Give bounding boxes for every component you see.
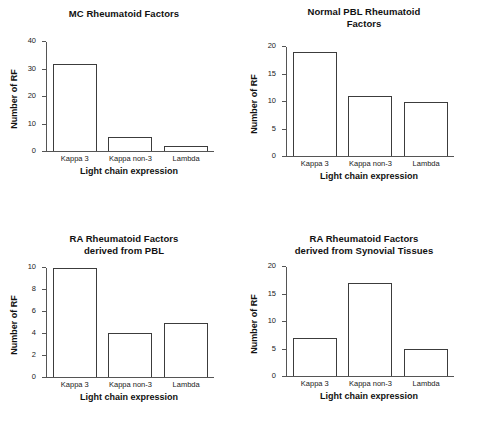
bar-series: [287, 267, 454, 376]
y-axis-tick-label: 30: [28, 65, 36, 73]
bar-slot: [343, 267, 399, 376]
y-axis-tick: 40: [42, 41, 46, 42]
bar-slot: [398, 267, 454, 376]
x-axis-tick-label: Kappa 3: [47, 154, 103, 163]
y-axis-tick: 6: [42, 311, 46, 312]
bar-lambda: [164, 323, 208, 378]
bar-kappa-3: [293, 52, 337, 156]
y-axis-tick: 10: [42, 267, 46, 268]
x-axis-line: [46, 151, 214, 152]
x-axis-tick-label: Kappa non-3: [343, 159, 399, 168]
bar-slot: [47, 42, 103, 151]
bar-slot: [343, 47, 399, 156]
bar-slot: [158, 268, 214, 377]
y-axis-tick-label: 40: [28, 37, 36, 45]
y-axis-tick-label: 15: [268, 290, 276, 298]
y-axis-tick-label: 5: [272, 345, 276, 353]
bar-kappa-non-3: [348, 96, 392, 156]
bar-kappa-3: [293, 338, 337, 376]
y-axis-tick-label: 4: [32, 329, 36, 337]
bar-slot: [103, 268, 159, 377]
y-axis-tick-label: 10: [28, 263, 36, 271]
bar-slot: [398, 47, 454, 156]
y-axis-tick: 5: [282, 129, 286, 130]
y-axis-tick: 20: [42, 96, 46, 97]
x-axis-tick-labels: Kappa 3Kappa non-3Lambda: [47, 154, 214, 163]
y-axis-tick: 0: [282, 376, 286, 377]
x-axis-tick-label: Lambda: [158, 380, 214, 389]
y-axis-label: Number of RF: [9, 295, 19, 355]
bar-kappa-non-3: [108, 333, 152, 377]
bar-series: [47, 42, 214, 151]
bar-series: [47, 268, 214, 377]
bar-slot: [103, 42, 159, 151]
y-axis-tick: 0: [42, 377, 46, 378]
y-axis-tick: 0: [282, 156, 286, 157]
y-axis-tick-label: 10: [268, 97, 276, 105]
x-axis-tick-label: Kappa 3: [287, 159, 343, 168]
x-axis-tick-label: Lambda: [158, 154, 214, 163]
bar-lambda: [404, 349, 448, 376]
x-axis-label: Light chain expression: [280, 391, 458, 402]
x-axis-tick-labels: Kappa 3Kappa non-3Lambda: [47, 380, 214, 389]
y-axis-tick-label: 2: [32, 351, 36, 359]
bar-kappa-non-3: [108, 137, 152, 151]
y-axis-tick: 10: [282, 101, 286, 102]
plot-area: 010203040 Kappa 3Kappa non-3Lambda: [46, 42, 214, 152]
y-axis-tick: 4: [42, 333, 46, 334]
y-axis-tick-label: 10: [268, 317, 276, 325]
x-axis-line: [286, 376, 454, 377]
y-axis-tick-label: 0: [272, 372, 276, 380]
y-axis-tick: 10: [282, 321, 286, 322]
y-axis-label: Number of RF: [249, 74, 259, 134]
bar-kappa-3: [53, 64, 97, 151]
y-axis-tick: 30: [42, 69, 46, 70]
bar-kappa-non-3: [348, 283, 392, 376]
x-axis-tick-label: Kappa non-3: [343, 379, 399, 388]
bar-kappa-3: [53, 268, 97, 377]
y-axis-tick-label: 8: [32, 285, 36, 293]
x-axis-tick-label: Kappa non-3: [103, 154, 159, 163]
bar-series: [287, 47, 454, 156]
x-axis-tick-label: Kappa 3: [287, 379, 343, 388]
y-axis-tick: 0: [42, 151, 46, 152]
chart-title: MC Rheumatoid Factors: [14, 8, 234, 20]
x-axis-label: Light chain expression: [40, 166, 218, 177]
chart-panel-normal-pbl-rheumatoid-factors: Normal PBL Rheumatoid Factors Number of …: [240, 0, 480, 214]
chart-title: RA Rheumatoid Factors derived from PBL: [14, 233, 234, 256]
bar-lambda: [404, 102, 448, 157]
x-axis-line: [46, 377, 214, 378]
chart-panel-ra-rheumatoid-factors-synovial: RA Rheumatoid Factors derived from Synov…: [240, 215, 480, 429]
y-axis-tick: 15: [282, 294, 286, 295]
y-axis-tick: 10: [42, 124, 46, 125]
y-axis-tick-label: 6: [32, 307, 36, 315]
y-axis-tick: 2: [42, 355, 46, 356]
y-axis-tick-label: 20: [28, 92, 36, 100]
chart-panel-ra-rheumatoid-factors-pbl: RA Rheumatoid Factors derived from PBL N…: [0, 215, 240, 429]
y-axis-label: Number of RF: [9, 69, 19, 129]
y-axis-tick-label: 0: [32, 147, 36, 155]
bar-slot: [287, 267, 343, 376]
x-axis-tick-label: Lambda: [398, 159, 454, 168]
bar-slot: [47, 268, 103, 377]
figure-panel-grid: MC Rheumatoid Factors Number of RF 01020…: [0, 0, 480, 429]
x-axis-tick-label: Lambda: [398, 379, 454, 388]
x-axis-tick-labels: Kappa 3Kappa non-3Lambda: [287, 159, 454, 168]
y-axis-tick-label: 20: [268, 42, 276, 50]
bar-lambda: [164, 146, 208, 151]
plot-area: 05101520 Kappa 3Kappa non-3Lambda: [286, 47, 454, 157]
chart-panel-mc-rheumatoid-factors: MC Rheumatoid Factors Number of RF 01020…: [0, 0, 240, 214]
x-axis-tick-label: Kappa non-3: [103, 380, 159, 389]
chart-title: Normal PBL Rheumatoid Factors: [254, 6, 474, 29]
bar-slot: [158, 42, 214, 151]
plot-area: 05101520 Kappa 3Kappa non-3Lambda: [286, 267, 454, 377]
y-axis-tick-label: 5: [272, 125, 276, 133]
y-axis-tick-label: 10: [28, 120, 36, 128]
y-axis-tick: 20: [282, 266, 286, 267]
y-axis-tick: 5: [282, 349, 286, 350]
x-axis-tick-label: Kappa 3: [47, 380, 103, 389]
y-axis-tick: 15: [282, 74, 286, 75]
y-axis-tick-label: 20: [268, 262, 276, 270]
bar-slot: [287, 47, 343, 156]
x-axis-tick-labels: Kappa 3Kappa non-3Lambda: [287, 379, 454, 388]
